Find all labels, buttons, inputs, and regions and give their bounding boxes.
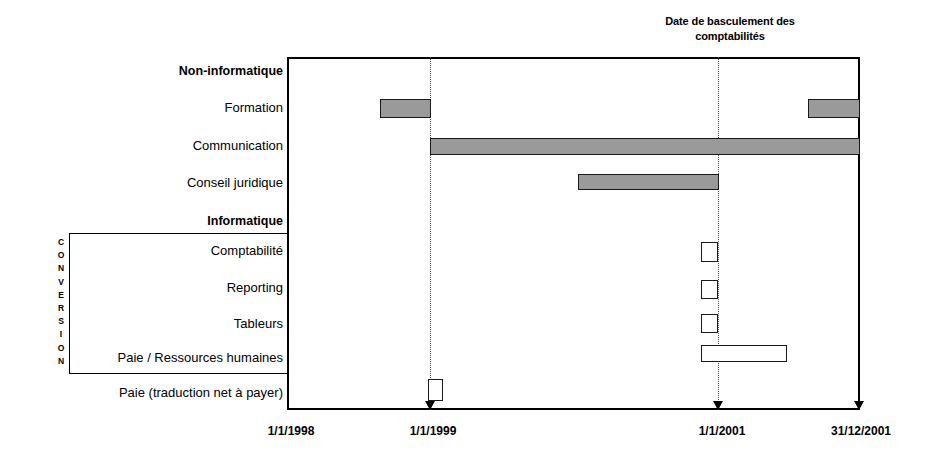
row-label-conseil-juridique: Conseil juridique (0, 176, 283, 190)
gantt-chart: Date de basculement des comptabilités No… (0, 0, 940, 462)
bar-tableurs (701, 314, 718, 333)
conversion-letter: N (54, 262, 68, 275)
conversion-letter: S (54, 315, 68, 328)
row-label-non-informatique: Non-informatique (0, 64, 283, 78)
row-labels-column: Non-informatique Formation Communication… (0, 0, 283, 462)
xtick-label-1: 1/1/1998 (268, 424, 315, 438)
chart-callout-title: Date de basculement des comptabilités (610, 14, 850, 44)
conversion-letter: V (54, 276, 68, 289)
conversion-letter: R (54, 302, 68, 315)
callout-title-line2: comptabilités (610, 29, 850, 44)
arrow-marker-1-1-1999 (425, 401, 435, 410)
xtick-label-4: 31/12/2001 (831, 424, 891, 438)
bar-formation-2 (808, 99, 860, 118)
conversion-letter: I (54, 328, 68, 341)
conversion-group-label: C O N V E R S I O N (54, 236, 68, 368)
bar-formation-1 (380, 99, 431, 118)
conversion-letter: O (54, 342, 68, 355)
conversion-letter: C (54, 236, 68, 249)
arrow-marker-1-1-2001 (713, 401, 723, 410)
bar-reporting (701, 280, 718, 299)
conversion-group-box (69, 233, 288, 374)
bar-paie-ressources-humaines (701, 345, 787, 362)
xtick-label-3: 1/1/2001 (699, 424, 746, 438)
row-label-formation: Formation (0, 101, 283, 115)
row-label-communication: Communication (0, 139, 283, 153)
conversion-letter: O (54, 249, 68, 262)
bar-paie-traduction (428, 379, 443, 401)
conversion-letter: E (54, 289, 68, 302)
bar-conseil-juridique (578, 174, 719, 190)
bar-comptabilite (701, 242, 718, 262)
bar-communication (430, 138, 860, 155)
arrow-marker-31-12-2001 (854, 401, 864, 410)
xtick-label-2: 1/1/1999 (410, 424, 457, 438)
row-label-informatique: Informatique (0, 214, 283, 228)
row-label-paie-traduction: Paie (traduction net à payer) (0, 386, 283, 400)
callout-title-line1: Date de basculement des (665, 15, 795, 27)
conversion-letter: N (54, 355, 68, 368)
